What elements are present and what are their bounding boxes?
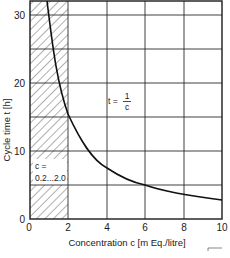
x-tick-0: 0 — [26, 222, 32, 233]
y-tick-30: 30 — [14, 10, 26, 21]
region-label-line1: c = — [35, 161, 47, 171]
region-label-line2: 0.2...2.0 — [35, 173, 66, 183]
corner-mark — [208, 248, 222, 251]
y-tick-20: 20 — [14, 78, 26, 89]
formula-lhs: t = — [108, 96, 118, 106]
curve-t-equals-1-over-c — [47, 1, 222, 200]
y-tick-0: 0 — [19, 214, 25, 225]
x-tick-6: 6 — [142, 222, 148, 233]
x-tick-2: 2 — [65, 222, 71, 233]
cycle-time-chart: 0 10 20 30 0 2 4 6 8 10 Concentration c … — [0, 0, 230, 258]
x-tick-4: 4 — [104, 222, 110, 233]
x-axis-label: Concentration c [m Eq./litre] — [68, 237, 185, 248]
formula-denominator: c — [125, 102, 130, 112]
y-axis-label: Cycle time t [h] — [1, 99, 12, 162]
x-tick-10: 10 — [216, 222, 228, 233]
formula-numerator: 1 — [125, 91, 130, 101]
y-tick-10: 10 — [14, 146, 26, 157]
x-tick-8: 8 — [181, 222, 187, 233]
shaded-region — [30, 1, 68, 219]
